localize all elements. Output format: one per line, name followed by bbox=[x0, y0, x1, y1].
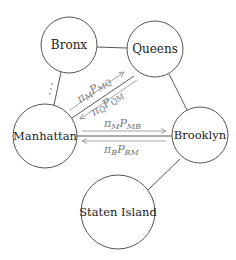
flow-label-bm: πBPBM bbox=[103, 143, 139, 157]
network-diagram: πMPMQ πQPQM πMPMB πBPBM Bronx Queens Man… bbox=[0, 0, 236, 260]
node-label-brooklyn: Brooklyn bbox=[174, 128, 227, 142]
node-manhattan: Manhattan bbox=[13, 104, 77, 168]
node-brooklyn: Brooklyn bbox=[172, 107, 228, 163]
edge-brooklyn-staten-island bbox=[148, 159, 180, 190]
node-bronx: Bronx bbox=[41, 17, 97, 73]
node-label-staten-island: Staten Island bbox=[79, 205, 157, 219]
node-queens: Queens bbox=[127, 21, 183, 77]
edge-bronx-queens bbox=[97, 47, 127, 48]
edge-bronx-manhattan bbox=[54, 72, 61, 105]
node-label-queens: Queens bbox=[132, 42, 178, 56]
node-staten-island: Staten Island bbox=[79, 175, 157, 249]
node-label-manhattan: Manhattan bbox=[13, 129, 77, 143]
ellipsis-icon bbox=[49, 83, 53, 95]
flow-label-mb: πMPMB bbox=[103, 117, 141, 131]
node-label-bronx: Bronx bbox=[51, 38, 88, 52]
edge-queens-brooklyn bbox=[169, 74, 187, 110]
